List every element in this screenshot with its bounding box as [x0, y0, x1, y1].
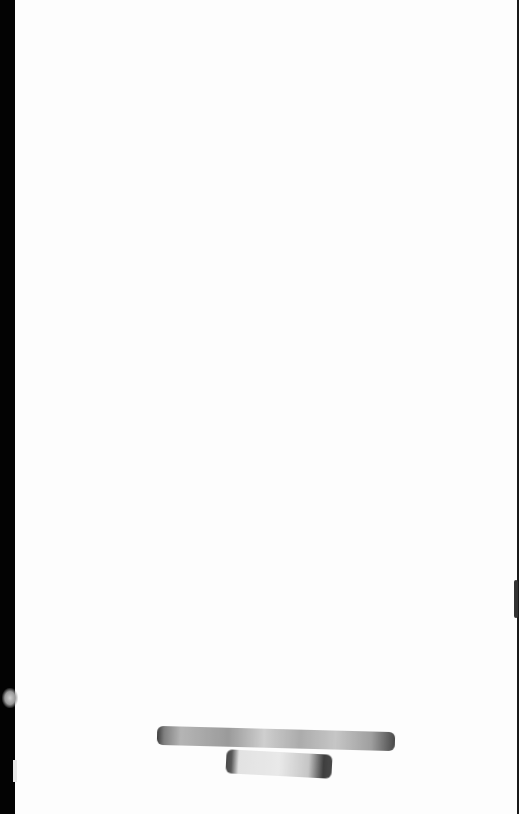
edge-mark	[514, 580, 518, 618]
scan-border-left	[0, 0, 15, 814]
redaction-stroke-top	[157, 726, 395, 751]
scanned-page	[0, 0, 519, 814]
redaction-stroke-bottom	[225, 749, 332, 779]
scan-speck	[2, 688, 18, 708]
scan-notch	[13, 760, 17, 782]
